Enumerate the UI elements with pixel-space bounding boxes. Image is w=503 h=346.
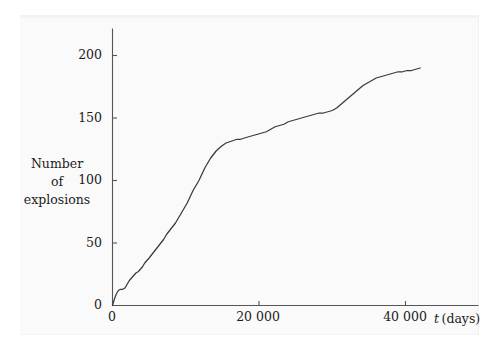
cumulative-explosions-curve xyxy=(113,68,421,306)
y-axis-title: Number of explosions xyxy=(18,155,96,208)
explosions-cumulative-chart: 0 50 100 150 200 Number of explosions 0 … xyxy=(0,0,503,346)
y-tick-label-50: 50 xyxy=(76,237,102,250)
x-axis-title: t(days) xyxy=(434,311,480,326)
y-tick-label-0: 0 xyxy=(76,299,102,312)
y-axis-title-line-2: of xyxy=(18,173,96,191)
y-tick-label-150: 150 xyxy=(76,112,102,125)
x-tick-label-20000: 20 000 xyxy=(227,311,289,324)
y-axis-title-line-1: Number xyxy=(18,155,96,173)
x-axis-title-symbol: t xyxy=(434,311,439,326)
figure-screenshot: 0 50 100 150 200 Number of explosions 0 … xyxy=(0,0,503,346)
x-tick-label-40000: 40 000 xyxy=(374,311,436,324)
x-tick-label-0: 0 xyxy=(100,311,124,324)
y-axis-title-line-3: explosions xyxy=(18,191,96,209)
x-axis-title-unit: (days) xyxy=(442,311,481,326)
y-tick-label-200: 200 xyxy=(76,49,102,62)
